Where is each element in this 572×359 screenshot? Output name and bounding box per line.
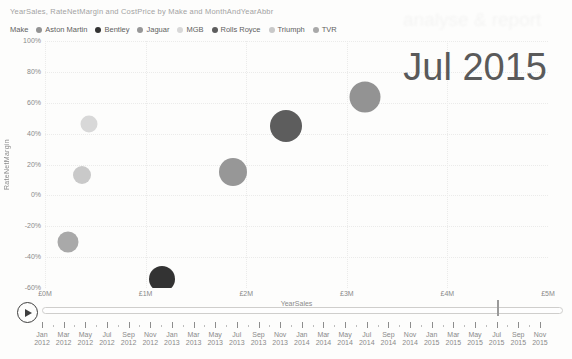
- timeline-label-nov-2012[interactable]: Nov2012: [142, 331, 158, 347]
- timeline-label-jan-2014[interactable]: Jan2014: [294, 331, 310, 347]
- legend-item-rolls-royce[interactable]: Rolls Royce: [212, 25, 261, 34]
- legend-title: Make: [10, 25, 28, 34]
- timeline-month: Mar: [56, 331, 72, 339]
- y-tick-label: 80%: [0, 68, 41, 75]
- timeline-label-sep-2012[interactable]: Sep2012: [121, 331, 137, 347]
- legend-item-mgb[interactable]: MGB: [177, 25, 203, 34]
- timeline-tick: [367, 322, 368, 328]
- legend-item-label: TVR: [322, 25, 337, 34]
- timeline-minor-tick: [74, 325, 75, 327]
- legend-item-jaguar[interactable]: Jaguar: [137, 25, 169, 34]
- timeline-label-may-2015[interactable]: May2015: [467, 331, 483, 347]
- powerbi-scatter-play-visual: YearSales, RateNetMargin and CostPrice b…: [0, 0, 572, 359]
- timeline-tick: [42, 322, 43, 328]
- timeline-label-sep-2014[interactable]: Sep2014: [381, 331, 397, 347]
- timeline-tick: [215, 322, 216, 328]
- timeline-year: 2014: [359, 339, 375, 347]
- timeline-label-jul-2015[interactable]: Jul2015: [489, 331, 505, 347]
- timeline-month: Nov: [142, 331, 158, 339]
- timeline-label-jan-2013[interactable]: Jan2013: [164, 331, 180, 347]
- timeline-tick: [64, 322, 65, 328]
- timeline-minor-tick: [486, 325, 487, 327]
- timeline-year: 2013: [207, 339, 223, 347]
- timeline-label-sep-2015[interactable]: Sep2015: [511, 331, 527, 347]
- timeline-tick: [518, 322, 519, 328]
- x-axis-tick-labels: £0M£1M£2M£3M£4M£5M: [45, 290, 548, 300]
- timeline-minor-tick: [96, 325, 97, 327]
- legend-item-triumph[interactable]: Triumph: [269, 25, 305, 34]
- gridline-vertical: [246, 41, 247, 288]
- timeline-label-jul-2013[interactable]: Jul2013: [229, 331, 245, 347]
- y-tick-label: 0%: [0, 191, 41, 198]
- timeline-minor-tick: [399, 325, 400, 327]
- timeline-label-mar-2013[interactable]: Mar2013: [186, 331, 202, 347]
- bubble-jaguar[interactable]: [219, 158, 247, 186]
- timeline-label-jul-2012[interactable]: Jul2012: [99, 331, 115, 347]
- bubble-triumph[interactable]: [73, 166, 91, 184]
- timeline-month: Sep: [381, 331, 397, 339]
- chart-title: YearSales, RateNetMargin and CostPrice b…: [10, 7, 273, 16]
- timeline-month: Jul: [359, 331, 375, 339]
- timeline-month: Jan: [34, 331, 50, 339]
- timeline-year: 2012: [121, 339, 137, 347]
- timeline-label-jul-2014[interactable]: Jul2014: [359, 331, 375, 347]
- timeline-label-mar-2015[interactable]: Mar2015: [446, 331, 462, 347]
- legend-item-tvr[interactable]: TVR: [313, 25, 337, 34]
- timeline-tick: [432, 322, 433, 328]
- timeline-minor-tick: [183, 325, 184, 327]
- timeline-year: 2014: [402, 339, 418, 347]
- timeline-year: 2015: [489, 339, 505, 347]
- legend-item-label: Jaguar: [146, 25, 169, 34]
- x-tick-label: £0M: [38, 290, 52, 297]
- timeline-minor-tick: [204, 325, 205, 327]
- timeline-tick: [410, 322, 411, 328]
- timeline-year: 2014: [316, 339, 332, 347]
- bubble-mgb[interactable]: [81, 116, 98, 133]
- timeline-month: May: [207, 331, 223, 339]
- bubble-bentley[interactable]: [149, 266, 175, 288]
- timeline-label-sep-2013[interactable]: Sep2013: [251, 331, 267, 347]
- play-axis-slider-track[interactable]: [42, 307, 563, 314]
- timeline-label-may-2012[interactable]: May2012: [78, 331, 94, 347]
- bubble-aston-martin[interactable]: [349, 81, 380, 112]
- timeline-tick: [194, 322, 195, 328]
- timeline-year: 2012: [78, 339, 94, 347]
- timeline-minor-tick: [248, 325, 249, 327]
- legend-dot-icon: [269, 27, 275, 33]
- timeline-label-jan-2012[interactable]: Jan2012: [34, 331, 50, 347]
- timeline-minor-tick: [226, 325, 227, 327]
- timeline-tick: [453, 322, 454, 328]
- timeline-label-nov-2013[interactable]: Nov2013: [272, 331, 288, 347]
- timeline-label-mar-2014[interactable]: Mar2014: [316, 331, 332, 347]
- timeline-label-nov-2014[interactable]: Nov2014: [402, 331, 418, 347]
- timeline-minor-tick: [118, 325, 119, 327]
- legend-item-aston-martin[interactable]: Aston Martin: [36, 25, 87, 34]
- timeline-year: 2015: [532, 339, 548, 347]
- timeline-month: Nov: [532, 331, 548, 339]
- timeline-tick: [259, 322, 260, 328]
- bubble-rolls-royce[interactable]: [270, 110, 302, 142]
- timeline-tick: [129, 322, 130, 328]
- timeline-month: May: [337, 331, 353, 339]
- bubble-tvr[interactable]: [58, 231, 79, 252]
- legend-item-label: Rolls Royce: [221, 25, 261, 34]
- legend-item-bentley[interactable]: Bentley: [95, 25, 129, 34]
- timeline-label-nov-2015[interactable]: Nov2015: [532, 331, 548, 347]
- y-tick-label: 100%: [0, 37, 41, 44]
- timeline-month: Sep: [121, 331, 137, 339]
- timeline-month: Sep: [511, 331, 527, 339]
- y-tick-label: -20%: [0, 222, 41, 229]
- timeline-label-mar-2012[interactable]: Mar2012: [56, 331, 72, 347]
- legend-dot-icon: [313, 27, 319, 33]
- timeline-label-may-2013[interactable]: May2013: [207, 331, 223, 347]
- timeline-month: Nov: [402, 331, 418, 339]
- timeline-minor-tick: [161, 325, 162, 327]
- y-tick-label: 40%: [0, 130, 41, 137]
- timeline-label-may-2014[interactable]: May2014: [337, 331, 353, 347]
- gridline-horizontal: [45, 226, 548, 227]
- timeline-label-jan-2015[interactable]: Jan2015: [424, 331, 440, 347]
- legend-item-label: Triumph: [278, 25, 305, 34]
- timeline-year: 2012: [34, 339, 50, 347]
- timeline-tick: [345, 322, 346, 328]
- play-axis-slider-handle[interactable]: [497, 300, 499, 316]
